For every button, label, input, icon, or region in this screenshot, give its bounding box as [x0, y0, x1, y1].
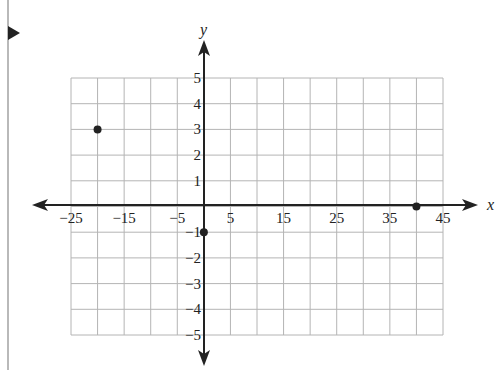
y-tick-label: −2: [185, 250, 201, 266]
y-tick-label: −4: [185, 301, 201, 317]
y-tick-label: −1: [185, 224, 201, 240]
y-tick-label: 1: [194, 173, 202, 189]
x-tick-label: −25: [59, 210, 82, 226]
axes: x y: [32, 21, 494, 366]
grid: [71, 78, 443, 335]
y-tick-label: 3: [194, 121, 202, 137]
x-tick-label: 15: [276, 210, 291, 226]
y-tick-label: 5: [194, 70, 202, 86]
x-axis-label: x: [486, 196, 494, 213]
y-axis-label: y: [198, 21, 208, 39]
x-tick-label: 5: [227, 210, 235, 226]
x-tick-label: −5: [169, 210, 185, 226]
x-tick-label: 45: [436, 210, 451, 226]
data-point: [412, 203, 420, 211]
y-tick-label: −5: [185, 327, 201, 343]
coordinate-plane: x y −25−15−5515253545 54321−1−2−3−4−5: [0, 0, 500, 370]
data-point: [94, 125, 102, 133]
x-tick-label: 35: [382, 210, 397, 226]
y-tick-label: 2: [194, 147, 202, 163]
x-tick-labels: −25−15−5515253545: [59, 210, 450, 226]
data-point: [200, 228, 208, 236]
y-tick-label: 4: [194, 96, 202, 112]
y-tick-label: −3: [185, 276, 201, 292]
x-tick-label: −15: [112, 210, 135, 226]
x-tick-label: 25: [329, 210, 344, 226]
